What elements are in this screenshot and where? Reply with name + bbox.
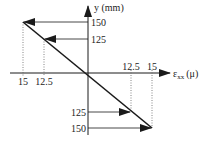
y-tick-150-bottom: 150 xyxy=(71,123,86,134)
y-tick-125-bottom: 125 xyxy=(71,107,86,118)
x-tick-15-right: 15 xyxy=(147,61,157,72)
y-axis-label: y (mm) xyxy=(94,2,124,14)
x-tick-15-left: 15 xyxy=(18,76,28,87)
strain-diagram: y (mm) 150 125 125 150 15 12.5 12.5 15 ε… xyxy=(0,0,208,143)
x-tick-12.5-right: 12.5 xyxy=(122,61,140,72)
x-axis-label: εxx(μ) xyxy=(173,68,198,81)
y-tick-125-top: 125 xyxy=(91,34,106,45)
x-tick-12.5-left: 12.5 xyxy=(35,76,53,87)
y-tick-150-top: 150 xyxy=(91,17,106,28)
